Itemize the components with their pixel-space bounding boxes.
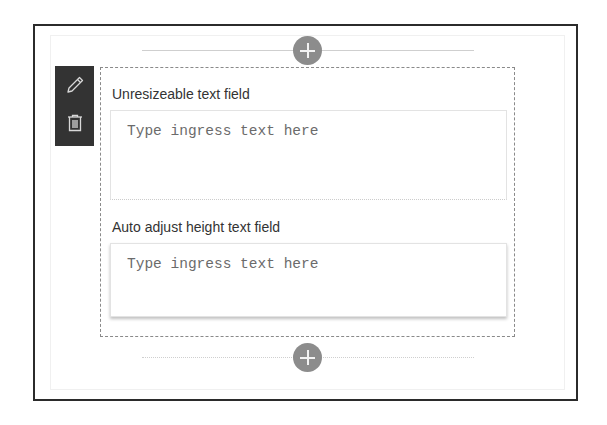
trash-icon — [66, 113, 84, 137]
plus-icon-vertical — [307, 43, 309, 58]
add-section-bottom-row — [142, 343, 474, 373]
pencil-icon — [65, 75, 85, 99]
auto-adjust-text-field[interactable]: Type ingress text here — [110, 243, 507, 317]
edit-webpart-button[interactable] — [55, 68, 94, 106]
add-section-top-row — [142, 36, 474, 66]
unresizable-text-field[interactable]: Type ingress text here — [110, 110, 507, 200]
unresizable-field-label: Unresizeable text field — [112, 86, 250, 102]
plus-icon-vertical — [307, 350, 309, 365]
webpart-container[interactable]: Unresizeable text field Type ingress tex… — [100, 67, 515, 337]
placeholder-text: Type ingress text here — [127, 123, 318, 139]
add-webpart-bottom-button[interactable] — [293, 343, 322, 372]
webpart-toolbar — [55, 66, 94, 146]
placeholder-text: Type ingress text here — [127, 256, 318, 272]
delete-webpart-button[interactable] — [55, 106, 94, 144]
auto-adjust-field-label: Auto adjust height text field — [112, 219, 280, 235]
add-webpart-top-button[interactable] — [293, 36, 322, 65]
